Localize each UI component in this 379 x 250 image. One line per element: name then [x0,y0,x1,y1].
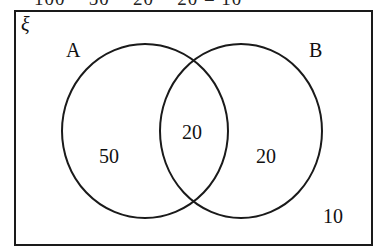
a-only-count: 50 [99,146,119,166]
set-b-label: B [309,40,322,60]
set-a-circle [62,44,228,218]
set-a-label: A [66,40,80,60]
b-only-count: 20 [256,146,276,166]
outside-count: 10 [323,206,343,226]
intersection-count: 20 [182,122,202,142]
universal-set-symbol: ξ [21,14,30,34]
